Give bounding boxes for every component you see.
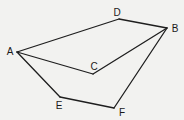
edge-ad bbox=[17, 19, 119, 52]
label-a: A bbox=[7, 46, 14, 57]
edge-fb bbox=[114, 28, 167, 108]
edge-cb bbox=[93, 28, 167, 74]
point-labels: A B C D E F bbox=[7, 7, 179, 118]
label-f: F bbox=[119, 107, 125, 118]
geometric-diagram: A B C D E F bbox=[0, 0, 184, 120]
label-d: D bbox=[113, 7, 120, 18]
edge-db bbox=[119, 19, 167, 28]
label-c: C bbox=[90, 61, 97, 72]
label-e: E bbox=[56, 100, 63, 111]
label-b: B bbox=[172, 23, 179, 34]
edge-ef bbox=[60, 97, 114, 108]
